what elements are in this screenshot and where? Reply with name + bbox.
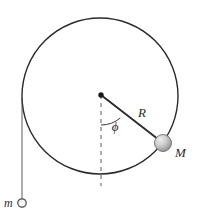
radius-label: R [137,105,146,120]
physics-diagram-figure: R ϕ M m [0,0,197,221]
diagram-canvas: R ϕ M m [0,0,197,221]
mass-m-label: m [4,196,13,210]
mass-m-circle [18,199,26,207]
mass-M-label: M [174,145,187,160]
angle-phi-label: ϕ [112,119,119,134]
radius-line [101,95,163,143]
mass-M-sphere [155,135,172,152]
center-point-dot [98,92,103,97]
